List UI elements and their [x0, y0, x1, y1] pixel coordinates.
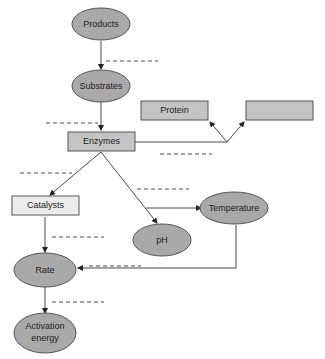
svg-text:Protein: Protein — [160, 105, 189, 115]
svg-text:Products: Products — [83, 19, 119, 29]
node-catalysts: Catalysts — [12, 196, 79, 215]
edge-enzymes-ph — [101, 152, 157, 223]
svg-text:Rate: Rate — [35, 265, 54, 275]
node-blank-box[interactable] — [246, 101, 313, 120]
concept-map: Products Substrates Enzymes Protein Cata… — [0, 0, 325, 359]
edge-enzymes-catalysts — [50, 152, 101, 195]
node-substrates: Substrates — [72, 70, 130, 102]
svg-text:Catalysts: Catalysts — [27, 200, 65, 210]
svg-text:Enzymes: Enzymes — [83, 136, 121, 146]
node-ph: pH — [133, 224, 191, 256]
svg-text:energy: energy — [31, 333, 59, 343]
node-activation-energy: Activation energy — [14, 313, 76, 353]
svg-text:pH: pH — [156, 235, 168, 245]
node-protein: Protein — [141, 101, 208, 120]
node-products: Products — [72, 8, 130, 40]
svg-text:Activation: Activation — [25, 321, 64, 331]
node-rate: Rate — [14, 253, 76, 287]
edge-enzymes-protein — [210, 122, 227, 142]
node-temperature: Temperature — [200, 192, 268, 224]
svg-text:Temperature: Temperature — [209, 203, 260, 213]
svg-text:Substrates: Substrates — [79, 81, 123, 91]
node-enzymes: Enzymes — [68, 132, 135, 151]
edge-enzymes-blank-box — [227, 122, 244, 142]
